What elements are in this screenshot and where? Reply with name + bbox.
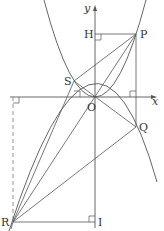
- segment-PS: [74, 34, 136, 81]
- y-axis-arrow-icon: [93, 5, 97, 11]
- point-R-label: R: [1, 216, 10, 229]
- downward-parabola: [9, 84, 157, 231]
- right-angle-mark-H: [95, 34, 101, 40]
- segment-SQ: [74, 81, 136, 127]
- y-axis-label: y: [83, 2, 91, 15]
- segment-PR: [13, 34, 136, 222]
- x-axis-label: x: [152, 95, 159, 108]
- right-angle-mark-I: [89, 216, 95, 222]
- right-angle-mark-PQ: [130, 91, 136, 97]
- segment-QR: [13, 127, 136, 222]
- point-I-label: I: [98, 216, 102, 229]
- point-P-label: P: [140, 28, 148, 41]
- point-H-label: H: [84, 28, 94, 41]
- point-S-label: S: [64, 75, 72, 88]
- segment-SR: [13, 81, 74, 222]
- right-angle-mark-dashed: [13, 97, 19, 103]
- origin-label: O: [87, 101, 96, 114]
- diagram: y x O P H S Q R I: [0, 0, 164, 231]
- point-Q-label: Q: [139, 121, 148, 134]
